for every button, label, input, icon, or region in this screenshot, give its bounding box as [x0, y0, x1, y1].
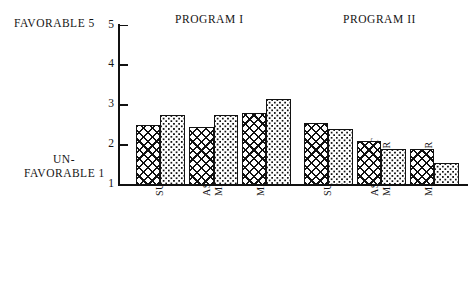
y-tick-label-4: 4 [98, 57, 114, 69]
y-tick-5 [120, 25, 128, 27]
y-tick-4 [120, 64, 128, 66]
bar-program-ii-manager-crosshatch [410, 149, 435, 185]
y-tick-2 [120, 144, 128, 146]
group-title-program-1: PROGRAM I [175, 13, 244, 25]
bar-program-i-assistant-manager-dots [214, 115, 239, 185]
bar-program-i-manager-dots [266, 99, 291, 185]
y-tick-label-5: 5 [98, 18, 114, 30]
y-tick-label-1: 1 [98, 177, 114, 189]
bar-program-ii-assistant-manager-crosshatch [357, 141, 382, 185]
bar-program-i-assistant-manager-crosshatch [189, 127, 214, 185]
bar-program-i-supervisor-crosshatch [136, 125, 161, 185]
bar-program-i-manager-crosshatch [242, 113, 267, 185]
y-tick-3 [120, 104, 128, 106]
axis-caption-unfavorable: UN- FAVORABLE 1 [24, 152, 104, 180]
bar-program-ii-supervisor-crosshatch [304, 123, 329, 185]
bar-chart: PROGRAM I PROGRAM II FAVORABLE 5 UN- FAV… [0, 0, 473, 288]
bar-program-ii-assistant-manager-dots [381, 149, 406, 185]
y-tick-label-3: 3 [98, 97, 114, 109]
axis-caption-unfavorable-line2: FAVORABLE 1 [24, 167, 105, 179]
bar-program-i-supervisor-dots [160, 115, 185, 185]
axis-caption-unfavorable-line1: UN- [53, 153, 75, 165]
group-title-program-2: PROGRAM II [343, 13, 416, 25]
bar-program-ii-supervisor-dots [328, 129, 353, 185]
y-tick-label-2: 2 [98, 137, 114, 149]
bar-program-ii-manager-dots [434, 163, 459, 185]
axis-caption-favorable: FAVORABLE 5 [14, 17, 95, 29]
